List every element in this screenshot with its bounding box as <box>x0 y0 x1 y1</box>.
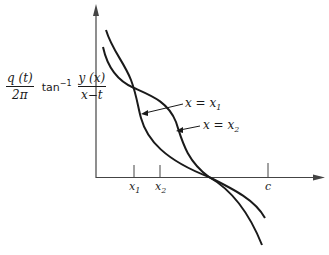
denominator-x-minus-t: x−t <box>81 87 103 102</box>
y-axis-label: q (t) 2π tan−1 y (x) x−t <box>6 62 106 110</box>
plot-canvas <box>0 0 329 255</box>
curve-x-equals-x1 <box>106 30 262 245</box>
tick-label-c: c <box>265 180 271 193</box>
curve-label-x1-text: x = x <box>185 96 216 110</box>
diagram-figure: q (t) 2π tan−1 y (x) x−t x = x1 x = x2 x… <box>0 0 329 255</box>
tick-label-c-text: c <box>265 180 271 193</box>
tick-label-x2: x2 <box>155 180 166 195</box>
leader-arrowhead-x1-icon <box>141 110 148 116</box>
curve-label-x2: x = x2 <box>203 118 239 134</box>
numerator-q: q (t) <box>6 71 34 87</box>
x-axis-arrowhead-icon <box>313 175 325 181</box>
function-exponent: −1 <box>60 79 72 88</box>
fraction-y-over-x-minus-t: y (x) x−t <box>78 71 107 102</box>
curve-label-x2-text: x = x <box>203 118 234 132</box>
y-axis-arrowhead-icon <box>93 4 99 16</box>
numerator-y: y (x) <box>78 71 107 87</box>
denominator-2pi: 2π <box>12 87 28 102</box>
fraction-q-over-2pi: q (t) 2π <box>6 71 34 102</box>
arctan-function: tan−1 <box>42 79 72 94</box>
tick-label-x2-sub: 2 <box>161 186 166 195</box>
curve-label-x2-sub: 2 <box>234 125 239 134</box>
tick-label-x1: x1 <box>129 180 140 195</box>
tick-label-x1-sub: 1 <box>135 186 140 195</box>
curve-label-x1-sub: 1 <box>216 103 221 112</box>
function-name: tan <box>42 80 60 93</box>
curve-label-x1: x = x1 <box>185 96 221 112</box>
